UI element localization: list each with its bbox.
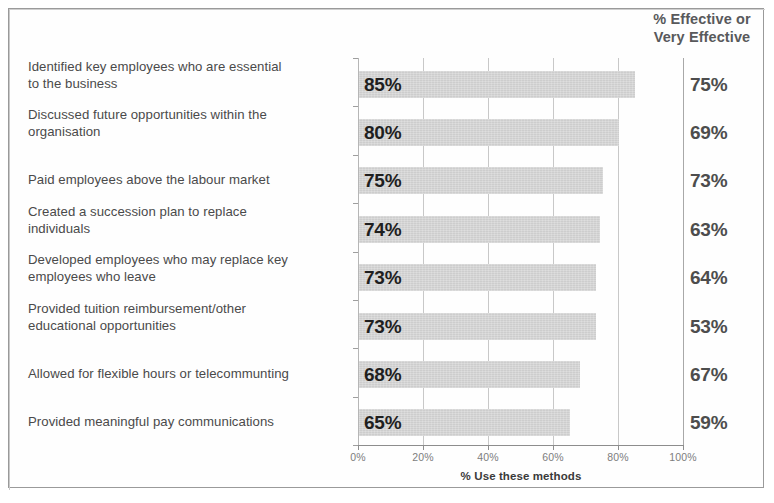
effective-value: 63%	[690, 216, 760, 243]
effective-value: 59%	[690, 409, 760, 436]
effective-column-header-line2: Very Effective	[634, 28, 770, 46]
category-label-line1: Provided tuition reimbursement/other	[28, 300, 340, 317]
category-label-line2: to the business	[28, 75, 340, 92]
y-tick-mark-6	[353, 348, 358, 349]
effective-value: 69%	[690, 119, 760, 146]
y-tick-mark-4	[353, 252, 358, 253]
x-tick-mark-60	[553, 445, 554, 450]
x-tick-mark-80	[618, 445, 619, 450]
x-tick-label-100: 100%	[660, 451, 706, 463]
category-label-line1: Created a succession plan to replace	[28, 203, 340, 220]
effective-column-header: % Effective or Very Effective	[634, 10, 770, 46]
bar-value-label: 65%	[364, 409, 401, 436]
y-tick-mark-2	[353, 155, 358, 156]
x-tick-label-60: 60%	[530, 451, 576, 463]
category-label-line1: Provided meaningful pay communications	[28, 413, 340, 430]
x-tick-mark-40	[488, 445, 489, 450]
bar-value-label: 74%	[364, 216, 401, 243]
category-label-line1: Discussed future opportunities within th…	[28, 106, 340, 123]
bar-value-label: 68%	[364, 361, 401, 388]
category-label: Provided meaningful pay communications	[28, 413, 340, 430]
category-label: Discussed future opportunities within th…	[28, 106, 340, 140]
category-label-line2: individuals	[28, 220, 340, 237]
chart-screenshot: % Effective or Very Effective 0%20%40%60…	[0, 0, 774, 503]
gridline-100	[683, 58, 684, 446]
effective-value: 67%	[690, 361, 760, 388]
x-tick-label-20: 20%	[400, 451, 446, 463]
bar-value-label: 75%	[364, 167, 401, 194]
x-tick-label-40: 40%	[465, 451, 511, 463]
category-label-line1: Paid employees above the labour market	[28, 171, 340, 188]
category-label-line1: Allowed for flexible hours or telecommun…	[28, 365, 340, 382]
gridline-80	[618, 58, 619, 446]
y-tick-mark-1	[353, 106, 358, 107]
bar-value-label: 85%	[364, 71, 401, 98]
x-tick-mark-0	[358, 445, 359, 450]
category-label: Paid employees above the labour market	[28, 171, 340, 188]
effective-value: 64%	[690, 264, 760, 291]
category-label: Provided tuition reimbursement/othereduc…	[28, 300, 340, 334]
x-tick-label-0: 0%	[335, 451, 381, 463]
x-axis-line	[358, 445, 684, 446]
x-tick-mark-20	[423, 445, 424, 450]
category-label: Allowed for flexible hours or telecommun…	[28, 365, 340, 382]
y-tick-mark-3	[353, 203, 358, 204]
effective-value: 53%	[690, 313, 760, 340]
bar-value-label: 80%	[364, 119, 401, 146]
bar-value-label: 73%	[364, 313, 401, 340]
category-label: Identified key employees who are essenti…	[28, 58, 340, 92]
effective-column-header-line1: % Effective or	[634, 10, 770, 28]
x-tick-mark-100	[683, 445, 684, 450]
category-label-line2: organisation	[28, 123, 340, 140]
category-label-line1: Developed employees who may replace key	[28, 251, 340, 268]
x-axis-title: % Use these methods	[358, 470, 684, 482]
bar-value-label: 73%	[364, 264, 401, 291]
x-tick-label-80: 80%	[595, 451, 641, 463]
effective-value: 75%	[690, 71, 760, 98]
category-label: Created a succession plan to replaceindi…	[28, 203, 340, 237]
category-label-line1: Identified key employees who are essenti…	[28, 58, 340, 75]
y-tick-mark-0	[353, 58, 358, 59]
y-tick-mark-7	[353, 397, 358, 398]
category-label-line2: educational opportunities	[28, 317, 340, 334]
category-label-line2: employees who leave	[28, 268, 340, 285]
y-tick-mark-5	[353, 300, 358, 301]
effective-value: 73%	[690, 167, 760, 194]
category-label: Developed employees who may replace keye…	[28, 251, 340, 285]
